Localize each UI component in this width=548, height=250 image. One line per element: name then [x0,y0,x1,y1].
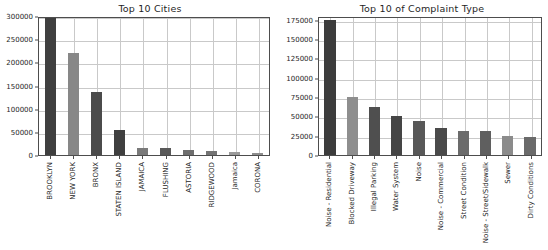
x-axis-tick-label: Street Condition [460,162,467,219]
bar-slot [62,18,85,155]
bar [114,130,126,155]
x-axis-slot: NEW YORK [61,156,84,248]
bar [413,121,425,155]
y-axis-tick-label: 75000 [291,95,313,102]
bar-slot [408,18,430,155]
y-axis-right: 0250005000075000100000125000150000175000 [274,17,318,156]
x-axis-tick-label: Noise - Commercial [438,162,445,230]
x-axis-tick-label: Noise [415,162,422,181]
chart-panel-top-10-complaint-type: Top 10 of Complaint Type 025000500007500… [274,0,548,250]
bar-slot [108,18,131,155]
y-axis-tick-label: 100000 [286,75,313,82]
bar [45,18,57,155]
x-axis-slot: BRONX [84,156,107,248]
x-axis-tick-label: JAMAICA [139,162,146,191]
bar [347,97,359,155]
bar-series-left [39,18,269,155]
x-axis-tick-label: ASTORIA [185,162,192,193]
bar-slot [319,18,341,155]
x-axis-tick-mark [352,156,353,159]
x-axis-tick-mark [212,156,213,159]
x-axis-tick-mark [441,156,442,159]
bar [324,20,336,155]
bar [252,153,264,155]
y-axis-tick-label: 150000 [6,83,33,90]
x-axis-tick-mark [486,156,487,159]
x-axis-slot: Jamaica [224,156,247,248]
x-axis-slot: Water System [385,156,407,248]
y-axis-tick-label: 100000 [6,106,33,113]
bar [137,148,149,155]
figure-canvas: Top 10 Cities 05000010000015000020000025… [0,0,548,250]
bar-slot [200,18,223,155]
x-axis-tick-mark [396,156,397,159]
chart-title-left: Top 10 Cities [0,3,274,14]
x-axis-left: BROOKLYNNEW YORKBRONXSTATEN ISLANDJAMAIC… [38,156,270,248]
bar [435,128,447,155]
bar [391,116,403,155]
bar-slot [223,18,246,155]
x-axis-tick-label: Jamaica [232,162,239,190]
x-axis-slot: Illegal Parking [363,156,385,248]
bar-slot [246,18,269,155]
y-axis-left: 050000100000150000200000250000300000 [0,17,38,156]
x-axis-slot: Noise - Street/Sidewalk [475,156,497,248]
x-axis-tick-mark [50,156,51,159]
x-axis-tick-mark [142,156,143,159]
x-axis-tick-mark [531,156,532,159]
x-axis-slot: Dirty Conditions [520,156,542,248]
y-axis-tick-label: 25000 [291,133,313,140]
chart-title-right: Top 10 of Complaint Type [274,3,548,14]
bar [480,131,492,155]
bar [229,152,241,155]
bar-slot [363,18,385,155]
bar-slot [474,18,496,155]
x-axis-slot: Street Condition [452,156,474,248]
bar [183,150,195,155]
x-axis-tick-mark [235,156,236,159]
x-axis-slot: Noise [408,156,430,248]
bar [524,137,536,155]
x-axis-slot: CORONA [247,156,270,248]
x-axis-tick-label: FLUSHING [162,162,169,197]
bar [369,107,381,155]
y-axis-tick-label: 50000 [11,129,33,136]
x-axis-tick-label: STATEN ISLAND [116,162,123,217]
x-axis-tick-mark [73,156,74,159]
bar [68,53,80,155]
x-axis-slot: RIDGEWOOD [200,156,223,248]
x-axis-tick-label: Water System [393,162,400,211]
y-axis-tick-label: 0 [29,153,33,160]
y-axis-tick-label: 150000 [286,37,313,44]
x-axis-tick-label: Noise - Residential [326,162,333,227]
x-axis-slot: Blocked Driveway [340,156,362,248]
x-axis-tick-label: Noise - Street/Sidewalk [483,162,490,243]
bar [458,131,470,155]
y-axis-tick-label: 125000 [286,56,313,63]
x-axis-tick-label: Dirty Conditions [527,162,534,218]
bar-slot [430,18,452,155]
bar-slot [452,18,474,155]
x-axis-tick-mark [96,156,97,159]
x-axis-tick-mark [508,156,509,159]
x-axis-tick-label: Illegal Parking [371,162,378,211]
y-axis-tick-label: 175000 [286,17,313,24]
x-axis-tick-mark [419,156,420,159]
x-axis-tick-mark [119,156,120,159]
x-axis-slot: Sewer [497,156,519,248]
bar-series-right [319,18,541,155]
x-axis-tick-mark [189,156,190,159]
bar-slot [497,18,519,155]
x-axis-tick-mark [374,156,375,159]
bar-slot [177,18,200,155]
x-axis-slot: JAMAICA [131,156,154,248]
x-axis-tick-label: NEW YORK [69,162,76,200]
x-axis-right: Noise - ResidentialBlocked DrivewayIlleg… [318,156,542,248]
y-axis-tick-label: 300000 [6,14,33,21]
x-axis-tick-mark [166,156,167,159]
bar-slot [154,18,177,155]
bar-slot [39,18,62,155]
x-axis-tick-label: RIDGEWOOD [209,162,216,208]
x-axis-tick-label: CORONA [255,162,262,193]
bar-slot [131,18,154,155]
